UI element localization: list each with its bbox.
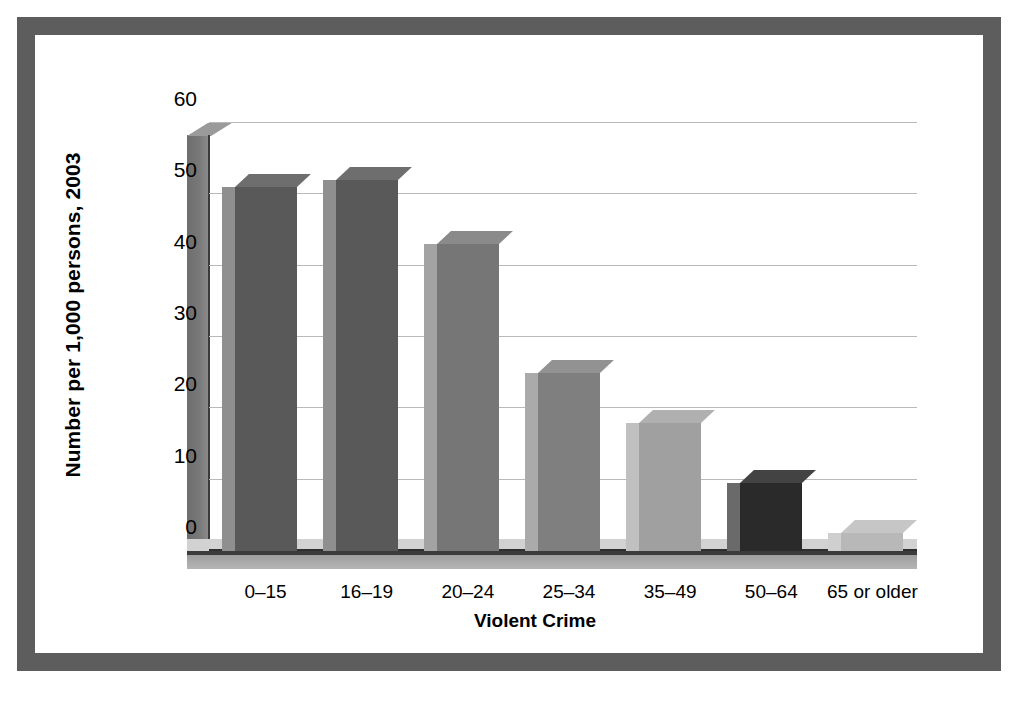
gridline-60 — [209, 122, 917, 123]
bar-35-49 — [639, 423, 701, 551]
bar-front-face — [740, 483, 802, 551]
y-tick-label-60: 60 — [174, 87, 197, 111]
y-tick-label-10: 10 — [174, 444, 197, 468]
bar-side-face — [727, 483, 740, 551]
bar-top-face — [336, 167, 412, 180]
bar-top-face — [841, 520, 917, 533]
bar-side-face — [828, 533, 841, 551]
chart-page: Number per 1,000 persons, 2003 010203040… — [0, 0, 1023, 713]
plot-inner: 0102030405060 — [209, 135, 917, 551]
y-tick-label-50: 50 — [174, 158, 197, 182]
y-tick-label-30: 30 — [174, 301, 197, 325]
y-axis-title: Number per 1,000 persons, 2003 — [61, 95, 85, 535]
plot-area: 0102030405060 — [187, 123, 917, 563]
gridline-50 — [209, 193, 917, 194]
bar-25-34 — [538, 373, 600, 551]
bar-top-face — [639, 410, 715, 423]
axis-wall-3d — [187, 135, 209, 563]
bar-top-face — [740, 470, 816, 483]
gridline-40 — [209, 265, 917, 266]
bar-front-face — [639, 423, 701, 551]
chart-frame-border: Number per 1,000 persons, 2003 010203040… — [17, 17, 1001, 671]
chart-canvas: Number per 1,000 persons, 2003 010203040… — [35, 35, 983, 653]
bar-20-24 — [437, 244, 499, 551]
bar-top-face — [538, 360, 614, 373]
bar-front-face — [841, 533, 903, 551]
bar-16-19 — [336, 180, 398, 551]
bar-50-64 — [740, 483, 802, 551]
bar-side-face — [626, 423, 639, 551]
bar-front-face — [437, 244, 499, 551]
bar-side-face — [424, 244, 437, 551]
bar-front-face — [336, 180, 398, 551]
bar-side-face — [525, 373, 538, 551]
bar-front-face — [235, 187, 297, 551]
x-tick-label-7: 65 or older — [811, 581, 933, 603]
y-tick-label-40: 40 — [174, 230, 197, 254]
x-axis-title: Violent Crime — [155, 610, 915, 632]
y-tick-label-20: 20 — [174, 372, 197, 396]
y-tick-label-0: 0 — [185, 515, 197, 539]
bar-65-or-older — [841, 533, 903, 551]
bar-front-face — [538, 373, 600, 551]
bar-top-face — [437, 231, 513, 244]
bar-0-15 — [235, 187, 297, 551]
bar-side-face — [323, 180, 336, 551]
gridline-30 — [209, 336, 917, 337]
bar-side-face — [222, 187, 235, 551]
plot-floor-3d — [187, 551, 917, 569]
bar-top-face — [235, 174, 311, 187]
